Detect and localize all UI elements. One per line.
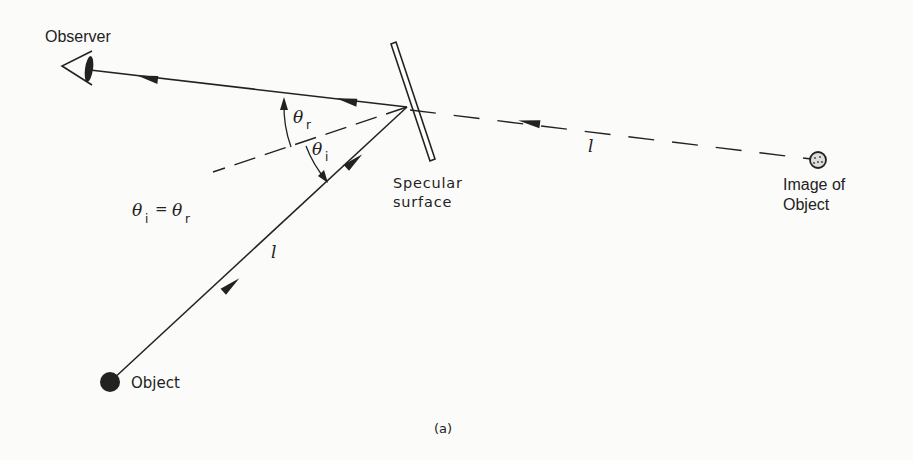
path-length-virtual-label: l (588, 136, 593, 156)
equation-equals: = (155, 200, 168, 218)
image-of-object-label-line1: Image of (783, 176, 846, 193)
image-of-object-label-line2: Object (783, 196, 830, 213)
equation-theta-i: θ (132, 200, 142, 220)
theta-r-label: θ (293, 107, 303, 127)
path-length-incident-label: l (271, 242, 276, 262)
observer-eye-icon (62, 51, 95, 85)
incident-ray (111, 107, 407, 381)
equation-sub-i: i (145, 212, 148, 226)
reflection-diagram: Observer θ r θ i θ i = θ r Specular surf… (0, 0, 913, 460)
image-of-object-icon (810, 152, 826, 168)
virtual-ray (410, 110, 811, 159)
angle-theta-r-arc (280, 97, 291, 147)
theta-i-label: θ (312, 139, 322, 159)
figure-caption: (a) (434, 421, 452, 436)
equation-sub-r: r (185, 212, 190, 226)
arrow-icon (336, 96, 358, 106)
object-label: Object (131, 374, 180, 392)
specular-surface-label-line2: surface (393, 194, 452, 210)
object-icon (100, 372, 120, 392)
specular-surface (391, 42, 435, 161)
theta-r-subscript: r (306, 118, 311, 132)
arrow-icon (344, 151, 365, 171)
equation-theta-r: θ (172, 200, 182, 220)
reflected-ray (90, 70, 407, 107)
observer-label: Observer (45, 28, 111, 45)
specular-surface-label-line1: Specular (393, 175, 463, 191)
surface-normal (213, 107, 407, 172)
theta-i-subscript: i (325, 150, 328, 164)
